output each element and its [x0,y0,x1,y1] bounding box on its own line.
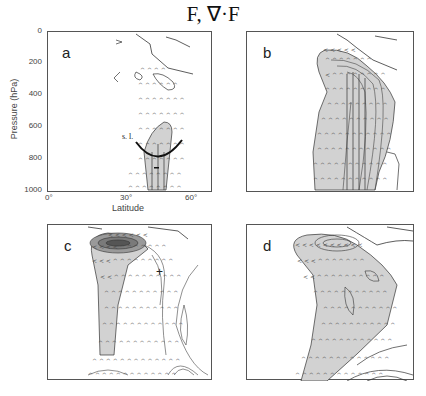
svg-text:< < < ^ ^ ^ ^ ^ ^ ^ ^ ^: < < < ^ ^ ^ ^ ^ ^ ^ ^ ^ [92,257,173,264]
panel-a-plot: ^ ^ ^ ^ ^ ^ ^ ^ ^ ^ ^ ^ ^ ^ ^ ^ ^ ^ ^ ^ … [48,32,213,193]
x-axis-label: Latitude [112,203,144,213]
svg-text:^ ^ ^ ^ ^ ^ ^ ^: ^ ^ ^ ^ ^ ^ ^ ^ [128,171,182,178]
svg-text:^ ^ ^ ^ ^ ^ ^ ^ ^ ^ ^: ^ ^ ^ ^ ^ ^ ^ ^ ^ ^ ^ [104,289,178,296]
svg-text:^ ^ ^ ^ ^ ^ ^: ^ ^ ^ ^ ^ ^ ^ [138,111,185,118]
svg-text:^ ^ ^ ^ ^ ^ ^ ^: ^ ^ ^ ^ ^ ^ ^ ^ [128,184,182,191]
xtick-30: 30° [120,193,132,202]
figure-title: F, ∇·F [0,2,426,27]
svg-text:^ ^ ^ ^ ^ ^ ^: ^ ^ ^ ^ ^ ^ ^ [325,56,372,63]
panel-d-label: d [263,237,271,254]
svg-text:^ ^ ^ ^ ^ ^ ^ ^ ^ ^ ^ ^: ^ ^ ^ ^ ^ ^ ^ ^ ^ ^ ^ ^ [311,337,392,344]
svg-text:^ ^ ^ ^ ^ ^ ^: ^ ^ ^ ^ ^ ^ ^ [138,126,185,133]
svg-text:^ ^ ^ ^ ^ ^ ^ ^ ^ ^ ^: ^ ^ ^ ^ ^ ^ ^ ^ ^ ^ ^ [317,146,391,153]
panel-d: < < < < < < < < < < < < < ^ ^ ^ ^ ^ ^ ^ … [246,224,414,380]
svg-text:^ ^ ^ ^ ^ ^ ^ ^ ^ ^: ^ ^ ^ ^ ^ ^ ^ ^ ^ ^ [321,116,388,123]
panel-b-plot: < < < < < ^ ^ ^ ^ ^ ^ ^ < ^ ^ ^ ^ ^ ^ ^ … [247,32,415,193]
svg-text:^ ^ ^ ^ ^ ^ ^ ^ ^ ^ ^: ^ ^ ^ ^ ^ ^ ^ ^ ^ ^ ^ [313,289,387,296]
svg-text:^ ^ ^ ^ ^ ^ ^: ^ ^ ^ ^ ^ ^ ^ [138,96,185,103]
ytick-800: 800 [12,153,42,162]
svg-text:^ ^ ^ ^ ^ ^ ^ ^ ^: ^ ^ ^ ^ ^ ^ ^ ^ ^ [327,101,388,108]
svg-text:^ ^ ^ ^ ^ ^ ^ ^ ^ ^ ^: ^ ^ ^ ^ ^ ^ ^ ^ ^ ^ ^ [317,131,391,138]
panel-c-plot: < < < < < < < < < < ^ ^ ^ ^ ^ ^ ^ < < < … [48,225,213,381]
svg-text:< < < ^ ^ ^ ^ ^ ^ ^: < < < ^ ^ ^ ^ ^ ^ ^ [297,257,364,264]
panel-c-label: c [64,237,72,254]
svg-text:< < < < < < < < < <: < < < < < < < < < < [295,241,362,248]
svg-text:^ ^ ^ ^ ^ ^ ^ ^ ^ ^ ^: ^ ^ ^ ^ ^ ^ ^ ^ ^ ^ ^ [321,321,395,328]
xtick-60: 60° [185,193,197,202]
ytick-0: 0 [12,26,42,35]
svg-text:^ ^ ^ ^ ^ ^ ^ ^ ^ ^ ^: ^ ^ ^ ^ ^ ^ ^ ^ ^ ^ ^ [323,305,397,312]
panel-d-plot: < < < < < < < < < < < < < ^ ^ ^ ^ ^ ^ ^ … [247,225,415,381]
svg-text:< < < < ^ ^ ^ ^ ^ ^ ^: < < < < ^ ^ ^ ^ ^ ^ ^ [92,243,166,250]
panel-b-label: b [263,44,271,61]
y-axis-label: Pressure (hPa) [9,79,19,140]
svg-text:< < < < <: < < < < < [323,46,356,53]
svg-text:< < < < < <: < < < < < < [108,231,148,238]
svg-text:^ ^ ^ ^ ^ ^: ^ ^ ^ ^ ^ ^ [138,81,178,88]
svg-text:< < ^ ^ ^ ^ ^ ^ ^ ^ ^ ^: < < ^ ^ ^ ^ ^ ^ ^ ^ ^ ^ [100,273,181,280]
sl-annotation: s. l. [122,132,133,141]
svg-text:< ^ ^ ^ ^ ^ ^ ^ ^: < ^ ^ ^ ^ ^ ^ ^ ^ [325,71,386,78]
svg-text:^ ^ ^ ^ ^ ^ ^ ^ ^ ^ ^ ^ ^: ^ ^ ^ ^ ^ ^ ^ ^ ^ ^ ^ ^ ^ [295,371,383,378]
xtick-0: 0° [45,193,53,202]
panel-c: < < < < < < < < < < ^ ^ ^ ^ ^ ^ ^ < < < … [47,224,212,380]
svg-text:^ ^ ^ ^ ^ ^ ^ ^ ^: ^ ^ ^ ^ ^ ^ ^ ^ ^ [325,86,386,93]
svg-text:^ ^ ^ ^ ^ ^ ^ ^ ^ ^ ^: ^ ^ ^ ^ ^ ^ ^ ^ ^ ^ ^ [313,176,387,183]
svg-text:< < ^ ^ ^ ^ ^ ^ ^ ^ ^ ^: < < ^ ^ ^ ^ ^ ^ ^ ^ ^ ^ [303,273,384,280]
svg-text:^ ^ ^ ^ ^ ^ ^ ^ ^ ^ ^ ^: ^ ^ ^ ^ ^ ^ ^ ^ ^ ^ ^ ^ [98,339,179,346]
panel-a-label: a [62,44,70,61]
svg-text:^ ^ ^ ^ ^ ^ ^ ^ ^ ^ ^ ^ ^: ^ ^ ^ ^ ^ ^ ^ ^ ^ ^ ^ ^ ^ [92,357,180,364]
svg-text:^ ^ ^ ^ ^ ^ ^ ^ ^ ^ ^: ^ ^ ^ ^ ^ ^ ^ ^ ^ ^ ^ [104,305,178,312]
svg-text:^ ^ ^ ^ ^ ^ ^ ^ ^ ^ ^ ^ ^: ^ ^ ^ ^ ^ ^ ^ ^ ^ ^ ^ ^ ^ [301,355,389,362]
svg-text:^ ^ ^ ^ ^ ^ ^ ^ ^ ^ ^: ^ ^ ^ ^ ^ ^ ^ ^ ^ ^ ^ [313,161,387,168]
panel-b: < < < < < ^ ^ ^ ^ ^ ^ ^ < ^ ^ ^ ^ ^ ^ ^ … [246,31,414,192]
plus-sign: + [156,265,163,279]
svg-text:^ ^ ^ ^ ^ ^ ^ ^ ^ ^ ^ ^ ^: ^ ^ ^ ^ ^ ^ ^ ^ ^ ^ ^ ^ ^ [88,371,176,378]
ytick-200: 200 [12,57,42,66]
svg-text:^ ^ ^ ^: ^ ^ ^ ^ [140,66,166,73]
svg-text:^ ^ ^ ^ ^ ^ ^ ^ ^ ^ ^ ^: ^ ^ ^ ^ ^ ^ ^ ^ ^ ^ ^ ^ [102,321,183,328]
panel-a: ^ ^ ^ ^ ^ ^ ^ ^ ^ ^ ^ ^ ^ ^ ^ ^ ^ ^ ^ ^ … [47,31,212,192]
ytick-1000: 1000 [12,185,42,194]
